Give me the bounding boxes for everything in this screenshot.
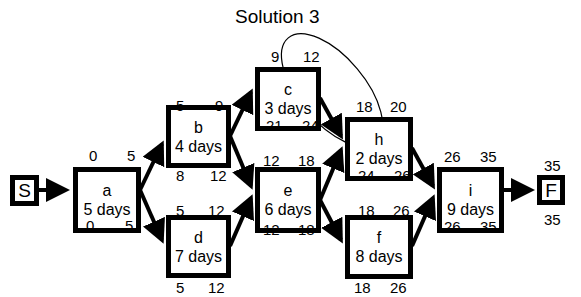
late-finish: 12 bbox=[208, 280, 225, 296]
edge-h-i bbox=[412, 148, 433, 186]
early-start: 5 bbox=[176, 98, 184, 114]
node-duration: 9 days bbox=[447, 200, 494, 219]
node-finish: F bbox=[537, 175, 565, 205]
node-label: S bbox=[18, 181, 31, 200]
early-finish: 5 bbox=[127, 148, 135, 164]
node-label: b bbox=[194, 118, 203, 137]
early-finish: 18 bbox=[298, 153, 315, 169]
late-start: 21 bbox=[266, 118, 283, 134]
edge-a-b bbox=[140, 144, 162, 190]
early-start: 5 bbox=[176, 203, 184, 219]
late-finish: 5 bbox=[125, 218, 133, 234]
network-diagram: Solution 3 S a 5 days 0 5 0 5 b 4 days 5… bbox=[0, 0, 581, 297]
node-label: h bbox=[375, 130, 384, 149]
edge-c-h bbox=[320, 98, 341, 136]
edge-e-f bbox=[320, 200, 341, 240]
node-f: f 8 days bbox=[345, 215, 413, 279]
node-label: a bbox=[103, 181, 112, 200]
late-start: 26 bbox=[444, 219, 461, 235]
early-finish: 9 bbox=[215, 98, 223, 114]
late-finish: 35 bbox=[480, 219, 497, 235]
node-duration: 2 days bbox=[355, 149, 402, 168]
late-start: 8 bbox=[176, 168, 184, 184]
node-label: F bbox=[545, 181, 557, 200]
edge-f-i bbox=[412, 198, 433, 246]
node-b: b 4 days bbox=[166, 105, 231, 168]
early-start: 18 bbox=[356, 99, 373, 115]
late-finish: 24 bbox=[302, 118, 319, 134]
late-start: 18 bbox=[354, 280, 371, 296]
node-label: c bbox=[284, 80, 292, 99]
early-finish: 12 bbox=[208, 203, 225, 219]
node-d: d 7 days bbox=[166, 215, 231, 278]
late-finish: 35 bbox=[544, 212, 561, 228]
edge-e-h bbox=[320, 150, 341, 200]
edge-a-d bbox=[140, 190, 162, 240]
late-finish: 26 bbox=[394, 168, 411, 184]
late-finish: 18 bbox=[298, 222, 315, 238]
late-finish: 12 bbox=[210, 168, 227, 184]
edge-b-c bbox=[230, 92, 251, 136]
early-finish: 12 bbox=[303, 49, 320, 65]
early-start: 18 bbox=[358, 203, 375, 219]
late-start: 5 bbox=[176, 280, 184, 296]
early-start: 26 bbox=[444, 149, 461, 165]
node-duration: 7 days bbox=[175, 247, 222, 266]
early-finish: 20 bbox=[390, 99, 407, 115]
early-start: 9 bbox=[271, 49, 279, 65]
early-start: 12 bbox=[263, 153, 280, 169]
node-duration: 4 days bbox=[175, 137, 222, 156]
edge-b-e bbox=[230, 136, 251, 186]
early-start: 35 bbox=[544, 158, 561, 174]
node-label: d bbox=[194, 228, 203, 247]
early-finish: 35 bbox=[480, 149, 497, 165]
node-duration: 3 days bbox=[264, 99, 311, 118]
edge-d-e bbox=[230, 198, 251, 246]
early-finish: 26 bbox=[393, 203, 410, 219]
node-duration: 8 days bbox=[355, 247, 402, 266]
late-start: 24 bbox=[358, 168, 375, 184]
node-duration: 6 days bbox=[264, 200, 311, 219]
late-finish: 26 bbox=[390, 280, 407, 296]
early-start: 0 bbox=[89, 148, 97, 164]
late-start: 12 bbox=[263, 222, 280, 238]
node-label: f bbox=[377, 228, 381, 247]
node-label: i bbox=[469, 181, 473, 200]
node-start: S bbox=[10, 175, 39, 206]
node-label: e bbox=[284, 181, 293, 200]
late-start: 0 bbox=[86, 218, 94, 234]
diagram-title: Solution 3 bbox=[235, 6, 320, 28]
